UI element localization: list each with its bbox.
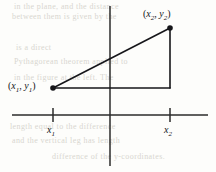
figure-container: in the plane, and the distance between t… xyxy=(0,0,216,172)
point-2-label: (x2, y2) xyxy=(143,8,171,22)
point-2-marker xyxy=(167,25,173,31)
x2-tick-label: x2 xyxy=(164,124,172,138)
x2-tick-label-subscript: 2 xyxy=(168,130,172,138)
point-1-label: (x1, y1) xyxy=(8,80,36,94)
point-1-marker xyxy=(50,85,56,91)
point-1-label-close-paren: ) xyxy=(32,80,35,91)
point-2-label-close-paren: ) xyxy=(167,8,170,19)
hypotenuse-segment xyxy=(53,28,170,88)
x1-tick-label-subscript: 1 xyxy=(51,130,55,138)
x1-tick-label: x1 xyxy=(47,124,55,138)
